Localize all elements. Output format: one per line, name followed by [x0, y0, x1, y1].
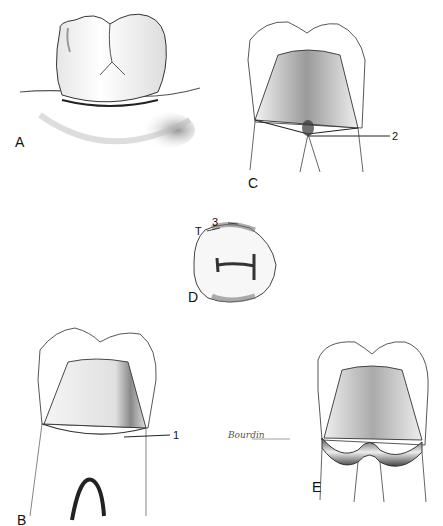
panel-label-b: B — [17, 513, 26, 526]
callout-2: 2 — [392, 131, 398, 142]
callout-1: 1 — [173, 430, 179, 441]
molar-crown-gingiva-drawing — [0, 0, 220, 180]
panel-label-a: A — [15, 135, 24, 149]
artist-signature: Bourdin — [224, 430, 304, 446]
panel-label-d: D — [188, 290, 198, 304]
callout-3: 3 — [212, 217, 218, 228]
panel-label-c: C — [248, 176, 258, 190]
preparation-furcation-drawing — [220, 0, 443, 190]
preparation-margin-drawing — [0, 320, 220, 526]
occlusal-view-drawing — [150, 190, 300, 320]
preparation-band-drawing — [310, 330, 443, 520]
panel-label-e: E — [312, 480, 321, 494]
panel-e-illustration: E — [310, 330, 443, 520]
callout-t: T — [195, 226, 202, 237]
panel-d-illustration: 3 T D — [150, 190, 300, 320]
panel-c-illustration: 2 C — [220, 0, 443, 190]
panel-a-illustration: A — [0, 0, 220, 180]
panel-b-illustration: 1 B — [0, 320, 220, 526]
signature-text: Bourdin — [228, 430, 265, 440]
